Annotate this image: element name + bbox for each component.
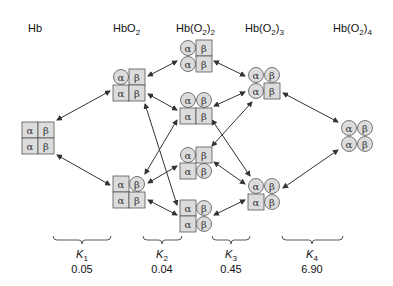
equilibrium-arrow bbox=[148, 61, 177, 76]
subunit-glyph: α bbox=[27, 141, 34, 152]
state-hbo2_3-b: αβαβ bbox=[248, 179, 280, 211]
label-subscript: 4 bbox=[367, 28, 371, 37]
equilibrium-arrow bbox=[145, 104, 177, 205]
hemoglobin-oxygenation-diagram: αβαβαβαβαβαβαβαβαβαβαβαβαβαβαβαβαβαβαβαβ… bbox=[0, 0, 393, 286]
subunit-glyph: β bbox=[269, 70, 275, 81]
label-subscript: 2 bbox=[210, 28, 214, 37]
subunit-glyph: α bbox=[185, 219, 192, 230]
subunit-glyph: β bbox=[201, 43, 207, 54]
constant-k1: K1 0.05 bbox=[57, 248, 107, 275]
state-hbo2_2-a: αβαβ bbox=[181, 40, 213, 72]
subunit-glyph: β bbox=[201, 111, 207, 122]
state-hbo2_2-d: αβαβ bbox=[180, 200, 212, 232]
subunit-glyph: α bbox=[185, 111, 192, 122]
label-hbo2-3: Hb(O2)3 bbox=[245, 22, 284, 37]
subunit-glyph: α bbox=[185, 166, 192, 177]
subunit-glyph: α bbox=[185, 150, 192, 161]
state-hbo2-a: αβαβ bbox=[113, 69, 145, 101]
subunit-glyph: α bbox=[185, 203, 192, 214]
state-hbo2_4: αβαβ bbox=[342, 121, 373, 152]
constant-value: 0.05 bbox=[57, 263, 107, 275]
label-hbo2: HbO2 bbox=[113, 22, 140, 37]
equilibrium-arrow bbox=[214, 92, 245, 106]
label-text: Hb bbox=[28, 22, 42, 34]
label-subscript: 3 bbox=[279, 28, 283, 37]
subunit-glyph: β bbox=[201, 219, 207, 230]
subunit-glyph: α bbox=[27, 125, 34, 136]
label-text: Hb(O bbox=[176, 22, 202, 34]
brace-icon bbox=[53, 236, 111, 244]
equilibrium-arrow bbox=[214, 162, 245, 184]
subunit-glyph: α bbox=[118, 179, 125, 190]
subunit-glyph: β bbox=[201, 166, 207, 177]
subunit-glyph: α bbox=[346, 123, 353, 134]
subunit-glyph: α bbox=[253, 86, 260, 97]
label-text: HbO bbox=[113, 22, 136, 34]
brace-icon bbox=[282, 236, 343, 244]
equilibrium-arrow bbox=[148, 166, 177, 183]
subunit-glyph: β bbox=[362, 139, 368, 150]
state-hbo2-b: αβαβ bbox=[113, 176, 145, 208]
subunit-glyph: β bbox=[362, 123, 368, 134]
subunit-glyph: β bbox=[134, 179, 140, 190]
state-hbo2_2-c: αβαβ bbox=[180, 147, 212, 179]
state-hbo2_2-b: αβαβ bbox=[180, 93, 212, 125]
constant-value: 0.45 bbox=[206, 263, 256, 275]
diagram-graphic: αβαβαβαβαβαβαβαβαβαβαβαβαβαβαβαβαβαβαβαβ bbox=[0, 0, 393, 286]
equilibrium-arrow bbox=[212, 102, 252, 146]
subunit-glyph: β bbox=[201, 95, 207, 106]
equilibrium-arrows bbox=[57, 61, 338, 215]
subunit-glyph: β bbox=[43, 125, 49, 136]
constant-braces bbox=[53, 236, 343, 244]
subunit-glyph: β bbox=[269, 181, 275, 192]
constant-subscript: 4 bbox=[313, 254, 317, 263]
equilibrium-arrow bbox=[214, 61, 245, 76]
brace-icon bbox=[212, 236, 250, 244]
constant-k4: K4 6.90 bbox=[287, 248, 337, 275]
constant-value: 0.04 bbox=[137, 263, 187, 275]
subunit-glyph: β bbox=[201, 150, 207, 161]
label-hbo2-2: Hb(O2)2 bbox=[176, 22, 215, 37]
equilibrium-arrow bbox=[214, 200, 245, 215]
subunit-glyph: α bbox=[185, 59, 192, 70]
brace-icon bbox=[143, 236, 182, 244]
equilibrium-arrow bbox=[57, 155, 110, 185]
subunit-glyph: β bbox=[269, 86, 275, 97]
label-subscript: 2 bbox=[136, 28, 140, 37]
subunit-glyph: β bbox=[134, 195, 140, 206]
constant-k3: K3 0.45 bbox=[206, 248, 256, 275]
constant-subscript: 2 bbox=[163, 254, 167, 263]
equilibrium-arrow bbox=[212, 120, 250, 176]
equilibrium-arrow bbox=[283, 150, 338, 188]
subunit-glyph: β bbox=[134, 72, 140, 83]
subunit-glyph: β bbox=[201, 203, 207, 214]
equilibrium-arrow bbox=[57, 91, 110, 120]
subunit-glyph: β bbox=[134, 88, 140, 99]
subunit-glyph: α bbox=[253, 181, 260, 192]
subunit-glyph: α bbox=[185, 95, 192, 106]
subunit-glyph: α bbox=[118, 195, 125, 206]
equilibrium-arrow bbox=[283, 93, 338, 122]
state-hb: αβαβ bbox=[22, 122, 54, 154]
label-hbo2-4: Hb(O2)4 bbox=[333, 22, 372, 37]
equilibrium-arrow bbox=[148, 94, 177, 110]
state-hbo2_3-a: αβαβ bbox=[249, 68, 281, 100]
label-text: Hb(O bbox=[333, 22, 359, 34]
equilibrium-arrow bbox=[145, 120, 177, 174]
label-text: Hb(O bbox=[245, 22, 271, 34]
constant-subscript: 1 bbox=[83, 254, 87, 263]
constant-subscript: 3 bbox=[232, 254, 236, 263]
subunit-glyph: β bbox=[269, 197, 275, 208]
subunit-glyph: α bbox=[253, 70, 260, 81]
constant-k2: K2 0.04 bbox=[137, 248, 187, 275]
subunit-glyph: β bbox=[201, 59, 207, 70]
subunit-glyph: α bbox=[346, 139, 353, 150]
constant-value: 6.90 bbox=[287, 263, 337, 275]
label-hb: Hb bbox=[28, 22, 42, 34]
hemoglobin-states: αβαβαβαβαβαβαβαβαβαβαβαβαβαβαβαβαβαβαβαβ bbox=[22, 40, 373, 232]
subunit-glyph: α bbox=[253, 197, 260, 208]
subunit-glyph: β bbox=[43, 141, 49, 152]
equilibrium-arrow bbox=[148, 200, 177, 215]
subunit-glyph: α bbox=[118, 88, 125, 99]
subunit-glyph: α bbox=[118, 72, 125, 83]
